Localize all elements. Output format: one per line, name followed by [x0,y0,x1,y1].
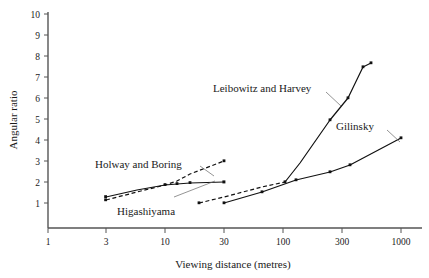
x-axis-title: Viewing distance (metres) [175,258,291,271]
leader-line-gilinsky [387,130,400,142]
y-tick-label-9: 9 [35,31,40,41]
data-point-marker [104,195,107,198]
x-tick-label-300: 300 [335,237,350,247]
chart-figure: 10 9 8 7 6 5 4 3 2 1 1 3 10 30 100 300 1… [0,0,429,278]
x-tick-label-10: 10 [160,237,170,247]
data-point-marker [295,178,298,181]
series-line-leibowitz-dashed [199,182,285,203]
y-axis-title: Angular ratio [7,90,19,149]
data-point-marker [347,96,350,99]
y-tick-label-3: 3 [35,157,40,167]
series-line-gilinsky [224,138,401,203]
leader-line-leibowitz [326,92,341,106]
y-tick-label-5: 5 [35,115,40,125]
data-point-marker [349,163,352,166]
annotation-leaders [174,92,400,197]
data-point-marker [261,190,264,193]
series-gilinsky [223,136,403,204]
y-tick-labels: 10 9 8 7 6 5 4 3 2 1 [31,10,41,209]
data-point-marker [198,201,201,204]
data-point-marker [400,136,403,139]
data-point-marker [176,182,179,185]
data-point-marker [329,118,332,121]
series-label-leibowitz-and-harvey: Leibowitz and Harvey [213,82,312,94]
data-point-marker [370,61,373,64]
x-tick-marks [48,228,401,233]
x-tick-label-100: 100 [276,237,291,247]
series-label-higashiyama: Higashiyama [117,205,175,217]
x-tick-label-1: 1 [46,237,51,247]
y-tick-label-7: 7 [35,73,40,83]
data-point-marker [223,201,226,204]
data-point-marker [104,198,107,201]
x-tick-labels: 1 3 10 30 100 300 1000 [46,237,411,247]
x-tick-label-1000: 1000 [392,237,411,247]
data-point-marker [222,180,225,183]
y-tick-label-6: 6 [35,94,40,104]
x-tick-label-3: 3 [104,237,109,247]
data-point-marker [329,170,332,173]
data-point-marker [189,181,192,184]
data-point-marker [362,65,365,68]
data-point-marker [223,159,226,162]
y-tick-label-8: 8 [35,52,40,62]
series-label-gilinsky: Gilinsky [336,120,374,132]
y-tick-label-10: 10 [31,10,41,20]
x-tick-label-30: 30 [219,237,229,247]
y-tick-label-1: 1 [35,199,40,209]
data-point-marker [284,180,287,183]
y-tick-label-4: 4 [35,136,40,146]
series-label-holway-and-boring: Holway and Boring [95,158,182,170]
chart-svg: 10 9 8 7 6 5 4 3 2 1 1 3 10 30 100 300 1… [0,0,429,278]
y-tick-label-2: 2 [35,178,40,188]
